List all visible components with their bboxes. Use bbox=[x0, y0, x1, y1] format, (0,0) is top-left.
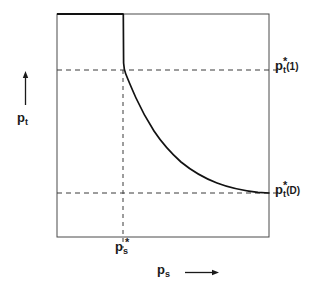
lower-asymptote-label: pt*(D) bbox=[275, 183, 300, 196]
critical-x-superscript: * bbox=[125, 236, 129, 248]
plot-frame bbox=[57, 14, 269, 237]
y-axis-title-base: p bbox=[17, 110, 25, 125]
x-axis-title: ps bbox=[157, 263, 170, 276]
lower-asymptote-base: p bbox=[275, 182, 283, 197]
figure-container: pt*(1) pt*(D) ps* pt ps bbox=[0, 0, 331, 294]
y-axis-arrow-icon bbox=[23, 71, 28, 105]
phase-diagram-plot bbox=[0, 0, 331, 294]
lower-asymptote-paren: (D) bbox=[286, 185, 300, 196]
curve-decay-segment bbox=[123, 14, 269, 193]
y-axis-title-subscript: t bbox=[25, 117, 28, 127]
x-axis-arrow-icon bbox=[185, 270, 219, 275]
critical-x-base: p bbox=[115, 239, 123, 254]
x-axis-title-subscript: s bbox=[165, 269, 170, 279]
critical-x-label: ps* bbox=[115, 240, 129, 253]
upper-asymptote-paren: (1) bbox=[286, 61, 298, 72]
upper-asymptote-label: pt*(1) bbox=[275, 59, 298, 72]
upper-asymptote-base: p bbox=[275, 58, 283, 73]
x-axis-title-base: p bbox=[157, 262, 165, 277]
y-axis-title: pt bbox=[17, 111, 28, 124]
